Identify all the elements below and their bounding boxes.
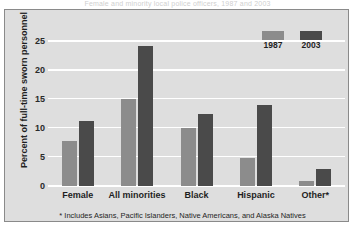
chart-frame: Percent of full-time sworn personnel 051… bbox=[4, 9, 349, 222]
chart-figure: Female and minority local police officer… bbox=[0, 0, 355, 232]
legend-swatch-2003 bbox=[300, 31, 322, 40]
legend-item-1987: 1987 bbox=[258, 31, 288, 50]
chart-legend: 19872003 bbox=[258, 31, 328, 57]
bar-black-1987 bbox=[181, 128, 196, 186]
legend-label-1987: 1987 bbox=[258, 41, 288, 50]
y-tick-label: 20 bbox=[19, 66, 45, 75]
bar-female-2003 bbox=[79, 121, 94, 186]
bar-hispanic-1987 bbox=[240, 158, 255, 186]
x-label-black: Black bbox=[167, 189, 226, 201]
x-label-female: Female bbox=[48, 189, 107, 201]
bar-all-minorities-1987 bbox=[121, 99, 136, 186]
y-axis-tick-labels: 0510152025 bbox=[15, 10, 45, 223]
y-tick-label: 5 bbox=[19, 153, 45, 162]
bar-other-2003 bbox=[316, 169, 331, 186]
gridline bbox=[48, 98, 345, 100]
bar-hispanic-2003 bbox=[257, 105, 272, 186]
cut-off-title: Female and minority local police officer… bbox=[0, 0, 355, 8]
x-label-all-minorities: All minorities bbox=[107, 189, 166, 201]
y-tick-label: 0 bbox=[19, 182, 45, 191]
y-tick-label: 15 bbox=[19, 95, 45, 104]
legend-swatch-1987 bbox=[262, 31, 284, 40]
bar-all-minorities-2003 bbox=[138, 46, 153, 186]
y-tick-label: 10 bbox=[19, 124, 45, 133]
x-axis-category-labels: FemaleAll minoritiesBlackHispanicOther* bbox=[48, 189, 345, 203]
bar-black-2003 bbox=[198, 114, 213, 186]
x-label-hispanic: Hispanic bbox=[226, 189, 285, 201]
chart-footnote: * Includes Asians, Pacific Islanders, Na… bbox=[25, 211, 340, 220]
bar-female-1987 bbox=[62, 141, 77, 186]
y-tick-label: 25 bbox=[19, 37, 45, 46]
legend-label-2003: 2003 bbox=[296, 41, 326, 50]
gridline bbox=[48, 69, 345, 71]
x-axis-baseline bbox=[48, 186, 345, 188]
legend-item-2003: 2003 bbox=[296, 31, 326, 50]
x-label-other: Other* bbox=[286, 189, 345, 201]
